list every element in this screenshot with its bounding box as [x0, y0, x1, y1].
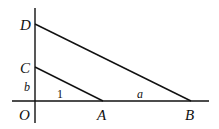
- segment-ca: [35, 67, 103, 101]
- segment-label-a: a: [137, 87, 143, 101]
- point-label-d: D: [19, 17, 31, 33]
- point-label-b: B: [185, 107, 194, 123]
- point-label-a: A: [96, 107, 107, 123]
- point-label-o: O: [19, 107, 30, 123]
- segment-label-b: b: [24, 80, 30, 94]
- segment-label-1: 1: [57, 87, 63, 101]
- point-label-c: C: [20, 60, 31, 76]
- geometry-diagram: D C O A B b 1 a: [0, 0, 219, 129]
